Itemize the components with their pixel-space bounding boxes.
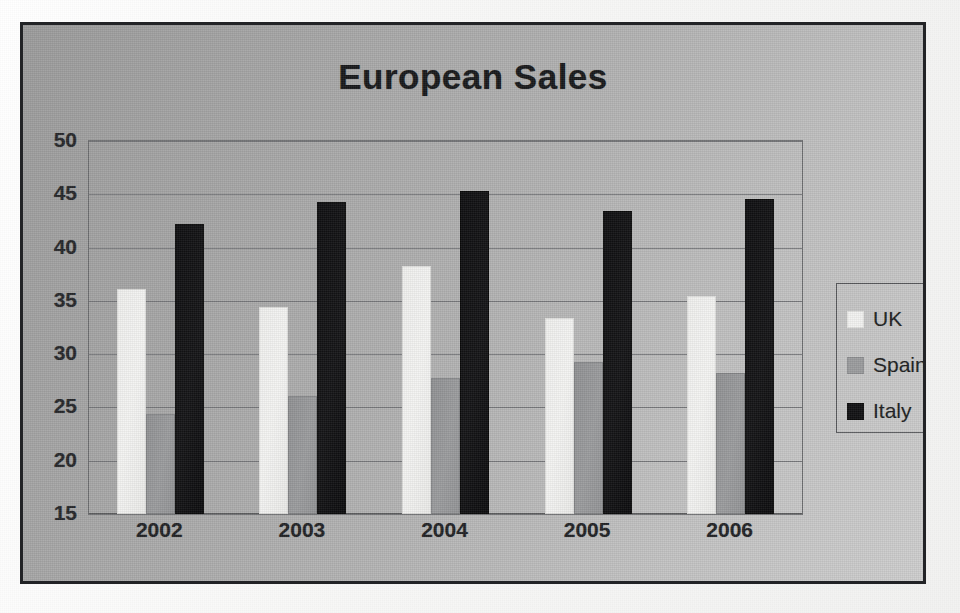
bar-italy-2006[interactable] <box>745 199 774 514</box>
plot-area <box>88 140 803 515</box>
chart-frame: European Sales 1520253035404550 20022003… <box>20 22 926 584</box>
x-axis-tick-label: 2005 <box>516 518 659 542</box>
y-axis-tick-label: 50 <box>54 128 77 152</box>
y-axis-tick-label: 35 <box>54 288 77 312</box>
legend-label: Italy <box>873 399 912 423</box>
bar-spain-2002[interactable] <box>146 414 175 514</box>
y-axis-tick-label: 15 <box>54 501 77 525</box>
x-axis-tick-label: 2002 <box>88 518 231 542</box>
legend-label: UK <box>873 307 902 331</box>
y-axis-tick-label: 40 <box>54 235 77 259</box>
bar-italy-2004[interactable] <box>460 191 489 514</box>
y-axis-tick-label: 30 <box>54 341 77 365</box>
chart-title: European Sales <box>23 57 923 97</box>
bar-group-2002 <box>89 141 232 514</box>
bar-group-2003 <box>232 141 375 514</box>
bar-italy-2002[interactable] <box>175 224 204 514</box>
x-axis-tick-label: 2006 <box>658 518 801 542</box>
bar-uk-2002[interactable] <box>117 289 146 514</box>
bar-group-2006 <box>659 141 802 514</box>
legend-swatch-icon-italy <box>847 403 864 420</box>
legend-item-uk[interactable]: UK <box>847 296 923 342</box>
legend-item-spain[interactable]: Spain <box>847 342 923 388</box>
bar-italy-2005[interactable] <box>603 211 632 514</box>
y-axis-labels: 1520253035404550 <box>23 140 83 513</box>
bar-italy-2003[interactable] <box>317 202 346 514</box>
bar-group-2005 <box>517 141 660 514</box>
x-axis-labels: 20022003200420052006 <box>88 518 801 542</box>
legend-swatch-icon-uk <box>847 311 864 328</box>
x-axis-tick-label: 2003 <box>231 518 374 542</box>
legend-item-italy[interactable]: Italy <box>847 388 923 434</box>
y-axis-tick-label: 25 <box>54 394 77 418</box>
bar-spain-2004[interactable] <box>431 378 460 514</box>
bar-uk-2006[interactable] <box>687 296 716 514</box>
bar-uk-2004[interactable] <box>402 266 431 514</box>
bar-spain-2006[interactable] <box>716 373 745 514</box>
bar-spain-2005[interactable] <box>574 362 603 514</box>
y-axis-tick-label: 45 <box>54 181 77 205</box>
bar-group-2004 <box>374 141 517 514</box>
bar-uk-2003[interactable] <box>259 307 288 514</box>
chart-legend: UKSpainItaly <box>836 283 924 433</box>
bar-spain-2003[interactable] <box>288 396 317 514</box>
legend-label: Spain <box>873 353 926 377</box>
x-axis-tick-label: 2004 <box>373 518 516 542</box>
y-axis-tick-label: 20 <box>54 448 77 472</box>
bar-groups <box>89 141 802 514</box>
legend-swatch-icon-spain <box>847 357 864 374</box>
bar-uk-2005[interactable] <box>545 318 574 514</box>
